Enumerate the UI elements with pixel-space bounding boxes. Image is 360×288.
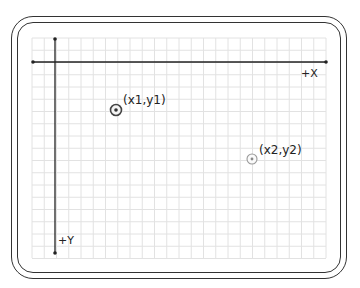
x-axis-label: +X	[301, 68, 318, 79]
x-axis-start-dot-icon	[31, 60, 35, 64]
point-2-target-icon	[247, 154, 257, 164]
point-1-target-icon	[111, 105, 122, 116]
y-axis-start-dot-icon	[53, 37, 57, 41]
y-axis-end-dot-icon	[53, 251, 57, 255]
x-axis-end-dot-icon	[324, 60, 328, 64]
point-1-label: (x1,y1)	[123, 94, 166, 106]
coordinate-canvas	[0, 0, 360, 288]
y-axis-label: +Y	[58, 235, 74, 246]
point-2-label: (x2,y2)	[259, 144, 302, 156]
